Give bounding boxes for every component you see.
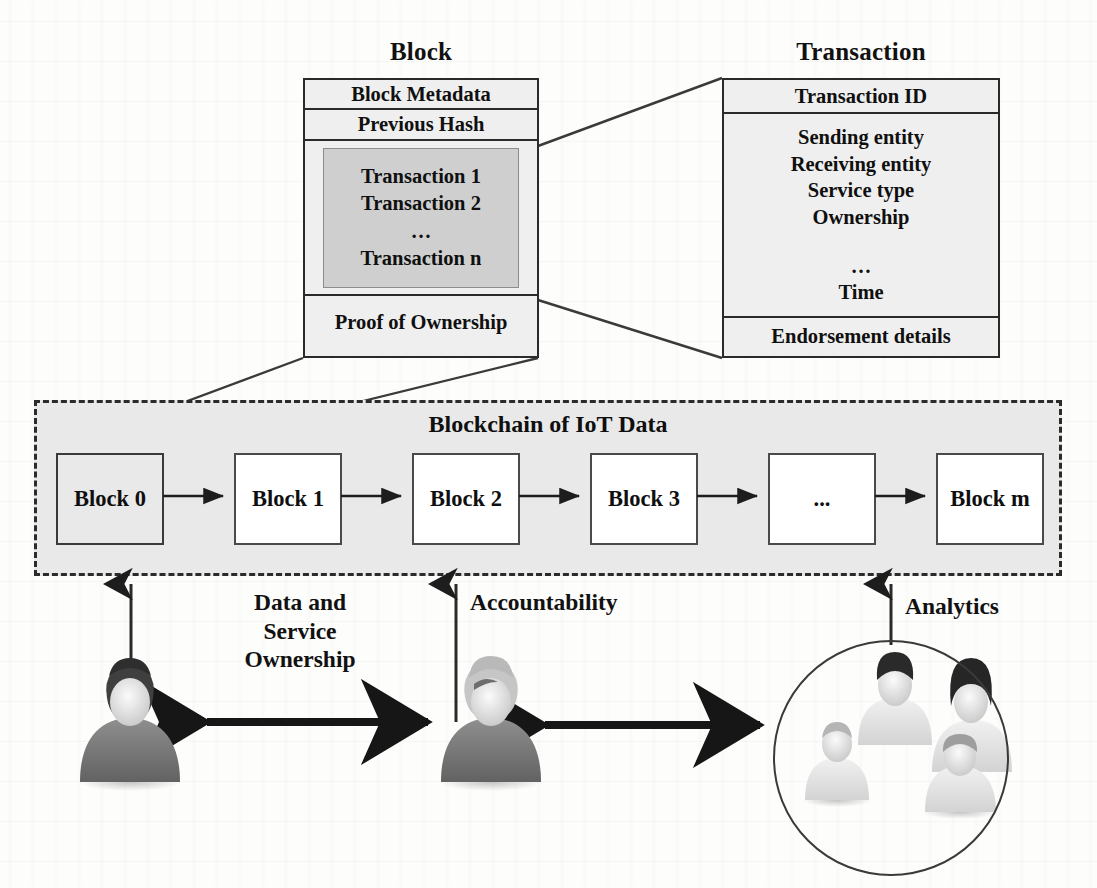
transaction-structure-box: Transaction ID Sending entity Receiving … [722,78,1000,358]
blockchain-container: Blockchain of IoT Data Block 0 Block 1 B… [34,400,1062,576]
caption-accountability: Accountability [470,588,700,617]
person-dark-icon-owner [78,658,182,791]
transaction-row-endorsement: Endorsement details [724,318,998,354]
caption-data-service-ownership: Data and Service Ownership [185,588,415,674]
chain-block-0[interactable]: Block 0 [56,453,164,545]
block-title: Block [303,38,539,66]
chain-block-1[interactable]: Block 1 [234,453,342,545]
transaction-item-2: Transaction 2 [361,190,481,217]
block-row-proof-of-ownership: Proof of Ownership [305,296,537,348]
chain-block-3[interactable]: Block 3 [590,453,698,545]
transaction-title: Transaction [722,38,1000,66]
transaction-field-service-type: Service type [808,177,914,204]
caption-line-3: Ownership [185,645,415,674]
block-transactions-list: Transaction 1 Transaction 2 … Transactio… [323,148,519,288]
block-row-metadata: Block Metadata [305,80,537,110]
caption-line-1: Data and [185,588,415,617]
caption-line-2: Service [185,617,415,646]
chain-block-m[interactable]: Block m [936,453,1044,545]
transaction-item-n: Transaction n [361,245,482,272]
chain-block-2[interactable]: Block 2 [412,453,520,545]
transaction-item-1: Transaction 1 [361,163,481,190]
transaction-ellipsis: … [411,218,432,245]
block-to-transaction-connectors [538,78,722,358]
block-row-previous-hash: Previous Hash [305,110,537,141]
chain-block-ellipsis[interactable]: ... [768,453,876,545]
person-dark-icon-auditor [439,656,543,791]
analytics-group-circle [773,640,1009,876]
transaction-row-id: Transaction ID [724,80,998,114]
transaction-field-sending-entity: Sending entity [798,124,924,151]
caption-analytics: Analytics [905,592,1065,621]
transaction-fields-region: Sending entity Receiving entity Service … [724,114,998,318]
transaction-field-ellipsis: … [851,253,872,280]
blockchain-title: Blockchain of IoT Data [37,411,1059,438]
transaction-field-ownership: Ownership [813,204,910,231]
diagram-canvas: Block Transaction Block Metadata Previou… [0,0,1097,888]
block-structure-box: Block Metadata Previous Hash Transaction… [303,78,539,358]
block-transactions-region: Transaction 1 Transaction 2 … Transactio… [305,141,537,296]
transaction-field-receiving-entity: Receiving entity [791,151,932,178]
double-headed-arrows [207,722,760,725]
transaction-field-time: Time [838,279,883,306]
